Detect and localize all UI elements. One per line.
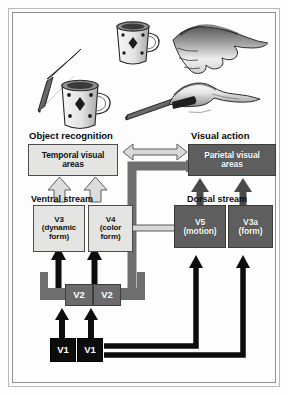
box-v5[interactable]: V5 (motion) bbox=[174, 205, 226, 248]
heading-visual-action: Visual action bbox=[191, 130, 249, 141]
label-dorsal-stream: Dorsal stream bbox=[187, 194, 247, 204]
figure-root: Object recognition Visual action bbox=[0, 0, 288, 395]
box-v1-left-label: V1 bbox=[57, 345, 68, 355]
box-v5-line2: (motion) bbox=[183, 227, 216, 236]
box-v1-right-label: V1 bbox=[84, 345, 95, 355]
box-v4[interactable]: V4 (color form) bbox=[88, 205, 133, 252]
box-temporal-line2: areas bbox=[62, 160, 84, 169]
box-v3a[interactable]: V3a (form) bbox=[228, 205, 273, 248]
box-parietal-line2: areas bbox=[221, 160, 243, 169]
mug-lower-graphic bbox=[62, 80, 110, 128]
box-v3a-line2: (form) bbox=[239, 227, 263, 236]
pen-right-graphic bbox=[125, 98, 175, 120]
top-illustration-scene bbox=[14, 14, 274, 126]
box-v3[interactable]: V3 (dynamic form) bbox=[33, 205, 85, 252]
pen-left-graphic bbox=[38, 49, 81, 113]
hand-holding-pen-graphic bbox=[169, 83, 260, 113]
box-v2-left[interactable]: V2 bbox=[65, 284, 93, 306]
box-v2-right[interactable]: V2 bbox=[93, 284, 121, 306]
label-ventral-stream: Ventral stream bbox=[31, 194, 93, 204]
hand-grasping-mug-graphic bbox=[173, 25, 268, 73]
mug-upper-graphic bbox=[117, 22, 159, 64]
box-v4-line3: form) bbox=[101, 233, 121, 241]
box-temporal-visual-areas[interactable]: Temporal visual areas bbox=[28, 144, 118, 176]
box-parietal-visual-areas[interactable]: Parietal visual areas bbox=[188, 144, 276, 176]
box-v1-left[interactable]: V1 bbox=[50, 338, 76, 362]
box-v3-line3: form) bbox=[49, 233, 69, 241]
heading-object-recognition: Object recognition bbox=[29, 130, 113, 141]
box-v1-right[interactable]: V1 bbox=[77, 338, 103, 362]
box-v2-left-label: V2 bbox=[73, 290, 84, 300]
box-v2-right-label: V2 bbox=[101, 290, 112, 300]
